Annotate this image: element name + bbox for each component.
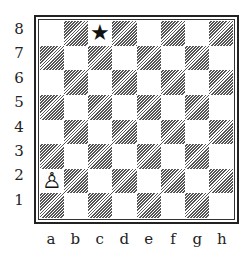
square-f3[interactable] [161,144,185,169]
square-d6[interactable] [112,70,136,95]
square-d1[interactable] [112,193,136,218]
square-f8[interactable] [161,21,185,46]
square-e3[interactable] [137,144,161,169]
square-h4[interactable] [209,120,233,145]
square-f6[interactable] [161,70,185,95]
square-a8[interactable] [40,21,64,46]
square-a3[interactable] [40,144,64,169]
square-a6[interactable] [40,70,64,95]
square-b1[interactable] [64,193,88,218]
board-inner-border: ★♙ [38,19,235,220]
square-a1[interactable] [40,193,64,218]
square-e4[interactable] [137,120,161,145]
square-c8[interactable]: ★ [88,21,112,46]
square-d3[interactable] [112,144,136,169]
square-e6[interactable] [137,70,161,95]
square-d5[interactable] [112,95,136,120]
square-c4[interactable] [88,120,112,145]
square-c1[interactable] [88,193,112,218]
square-d2[interactable] [112,169,136,194]
rank-label: 7 [12,44,26,62]
square-a5[interactable] [40,95,64,120]
square-g7[interactable] [185,46,209,71]
square-h5[interactable] [209,95,233,120]
square-b6[interactable] [64,70,88,95]
square-f2[interactable] [161,169,185,194]
square-d7[interactable] [112,46,136,71]
board-frame: ★♙ [34,15,239,224]
square-g2[interactable] [185,169,209,194]
square-h7[interactable] [209,46,233,71]
square-e1[interactable] [137,193,161,218]
star-marker-icon[interactable]: ★ [90,22,110,44]
square-g3[interactable] [185,144,209,169]
file-label: b [63,230,87,248]
file-label: h [210,230,234,248]
square-h6[interactable] [209,70,233,95]
square-b8[interactable] [64,21,88,46]
file-label: d [112,230,136,248]
square-f7[interactable] [161,46,185,71]
square-c6[interactable] [88,70,112,95]
rank-label: 1 [12,191,26,209]
square-b4[interactable] [64,120,88,145]
file-label: g [185,230,209,248]
square-f4[interactable] [161,120,185,145]
square-b3[interactable] [64,144,88,169]
square-e8[interactable] [137,21,161,46]
square-e5[interactable] [137,95,161,120]
file-label: f [161,230,185,248]
square-h2[interactable] [209,169,233,194]
rank-label: 6 [12,69,26,87]
square-b5[interactable] [64,95,88,120]
square-f5[interactable] [161,95,185,120]
square-a2[interactable]: ♙ [40,169,64,194]
square-e2[interactable] [137,169,161,194]
square-g5[interactable] [185,95,209,120]
square-c3[interactable] [88,144,112,169]
square-a4[interactable] [40,120,64,145]
square-a7[interactable] [40,46,64,71]
file-label: c [88,230,112,248]
square-g1[interactable] [185,193,209,218]
rank-label: 8 [12,20,26,38]
rank-label: 3 [12,142,26,160]
square-d4[interactable] [112,120,136,145]
square-c5[interactable] [88,95,112,120]
square-f1[interactable] [161,193,185,218]
square-h3[interactable] [209,144,233,169]
square-c7[interactable] [88,46,112,71]
rank-label: 5 [12,93,26,111]
file-label: a [39,230,63,248]
square-b2[interactable] [64,169,88,194]
file-label: e [137,230,161,248]
square-b7[interactable] [64,46,88,71]
square-g4[interactable] [185,120,209,145]
square-e7[interactable] [137,46,161,71]
square-g8[interactable] [185,21,209,46]
square-h8[interactable] [209,21,233,46]
rank-label: 4 [12,118,26,136]
square-d8[interactable] [112,21,136,46]
rank-label: 2 [12,166,26,184]
board-grid: ★♙ [40,21,233,218]
square-g6[interactable] [185,70,209,95]
square-h1[interactable] [209,193,233,218]
square-c2[interactable] [88,169,112,194]
white-pawn-icon[interactable]: ♙ [42,170,62,192]
